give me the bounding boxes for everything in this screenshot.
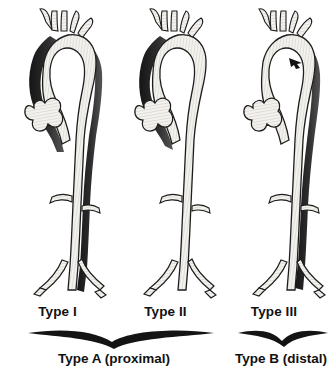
brace-type-a bbox=[28, 330, 214, 349]
aorta-type-2 bbox=[153, 35, 207, 290]
label-type-3: Type III bbox=[218, 305, 330, 319]
label-type-1: Type I bbox=[0, 305, 115, 319]
panel-type-2 bbox=[135, 9, 216, 298]
aortic-root-type-2 bbox=[135, 98, 173, 131]
arch-branch-vessels bbox=[40, 9, 93, 38]
aortic-root-type-3 bbox=[244, 98, 282, 131]
panel-type-3 bbox=[244, 9, 325, 298]
renal-artery-left-type-2 bbox=[160, 195, 182, 203]
arch-branch-vessels bbox=[259, 9, 312, 38]
intimal-tear-arrow bbox=[289, 58, 302, 69]
label-group-type-b: Type B (distal) bbox=[226, 352, 336, 366]
label-group-type-a: Type A (proximal) bbox=[0, 352, 228, 366]
panel-type-1 bbox=[25, 9, 106, 298]
renal-artery-left-type-1 bbox=[50, 195, 72, 203]
aortic-root-type-1 bbox=[25, 98, 63, 131]
renal-artery-right-type-2 bbox=[192, 205, 210, 213]
arch-branch-vessels bbox=[150, 9, 203, 38]
label-type-2: Type II bbox=[108, 305, 223, 319]
brace-type-b bbox=[238, 331, 328, 347]
renal-artery-left-type-3 bbox=[269, 195, 291, 203]
